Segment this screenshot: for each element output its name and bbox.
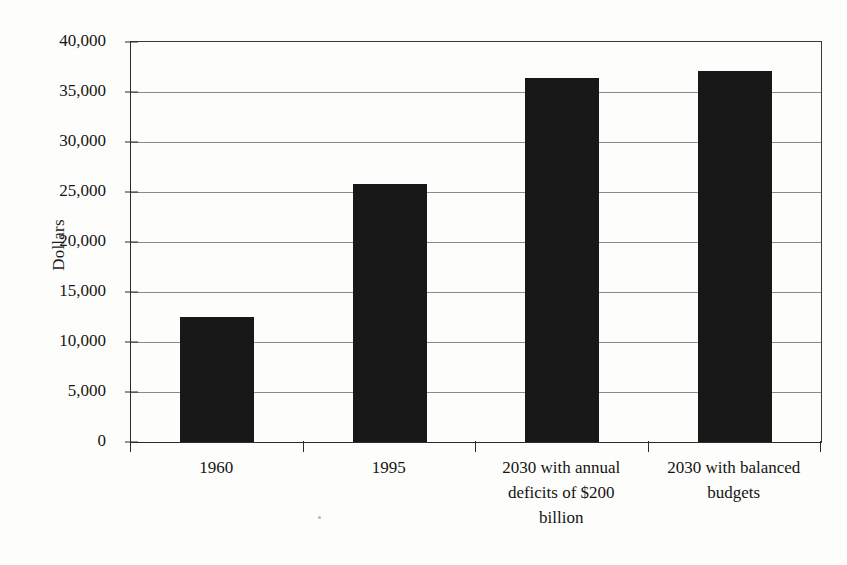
bar <box>698 71 772 442</box>
y-axis-tick-label: 30,000 <box>0 131 106 151</box>
x-axis-tick-label: 1960 <box>127 455 306 480</box>
y-axis-tick-label: 10,000 <box>0 331 106 351</box>
plot-area <box>130 41 822 443</box>
y-axis-tick-mark <box>125 342 138 343</box>
y-axis-tick-mark <box>125 42 138 43</box>
y-axis-tick-label: 5,000 <box>0 381 106 401</box>
x-axis-tick-mark <box>820 441 821 452</box>
y-axis-tick-label: 40,000 <box>0 31 106 51</box>
x-axis-tick-label-line: 1960 <box>127 455 306 480</box>
bar <box>525 78 599 442</box>
y-axis-tick-mark <box>125 92 138 93</box>
x-axis-tick-label-line: budgets <box>645 480 824 505</box>
x-axis-tick-mark <box>475 441 476 452</box>
x-axis-tick-mark <box>130 441 131 452</box>
y-axis-tick-mark <box>125 292 138 293</box>
x-axis-tick-label-line: 1995 <box>300 455 479 480</box>
y-axis-tick-label: 35,000 <box>0 81 106 101</box>
bar <box>353 184 427 442</box>
bar-chart: Dollars 40,00035,00030,00025,00020,00015… <box>0 0 847 565</box>
x-axis-tick-label: 2030 with annualdeficits of $200billion <box>472 455 651 530</box>
x-axis-tick-mark <box>648 441 649 452</box>
x-axis-tick-label-line: 2030 with balanced <box>645 455 824 480</box>
y-axis-tick-label: 20,000 <box>0 231 106 251</box>
bar <box>180 317 254 442</box>
y-axis-tick-mark <box>125 442 138 443</box>
y-axis-tick-label: 15,000 <box>0 281 106 301</box>
x-axis-tick-label: 2030 with balancedbudgets <box>645 455 824 505</box>
y-axis-tick-mark <box>125 192 138 193</box>
y-axis-tick-mark <box>125 392 138 393</box>
y-axis-tick-mark <box>125 242 138 243</box>
y-axis-tick-label: 25,000 <box>0 181 106 201</box>
x-axis-tick-label-line: billion <box>472 505 651 530</box>
x-axis-tick-mark <box>303 441 304 452</box>
x-axis-tick-label-line: deficits of $200 <box>472 480 651 505</box>
scan-artifact-speck <box>318 516 321 519</box>
x-axis-tick-label-line: 2030 with annual <box>472 455 651 480</box>
y-axis-tick-mark <box>125 142 138 143</box>
y-axis-tick-label: 0 <box>0 431 106 451</box>
x-axis-tick-label: 1995 <box>300 455 479 480</box>
